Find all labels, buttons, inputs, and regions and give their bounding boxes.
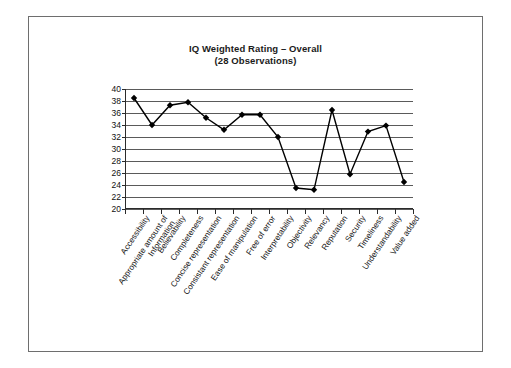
series-line [134,98,404,190]
y-axis-tick-label: 30 [112,144,121,154]
data-point-marker [311,187,317,193]
plot-area: 4038363432302826242220 [125,89,413,209]
y-axis-tick-label: 26 [112,168,121,178]
data-point-marker [401,179,407,185]
data-point-marker [347,171,353,177]
figure-frame: IQ Weighted Rating – Overall (28 Observa… [28,16,483,352]
data-series-line [125,89,413,209]
y-axis-tick-label: 24 [112,180,121,190]
chart-title: IQ Weighted Rating – Overall [29,43,482,55]
chart-title-block: IQ Weighted Rating – Overall (28 Observa… [29,43,482,67]
data-point-marker [329,107,335,113]
data-point-marker [365,128,371,134]
y-axis-tick-label: 36 [112,108,121,118]
y-axis-tick-label: 40 [112,84,121,94]
y-axis-tick-label: 28 [112,156,121,166]
x-axis-category-labels: AccessibilityAppropriate amount ofInform… [125,214,413,334]
data-point-marker [293,185,299,191]
y-axis-tick-label: 20 [112,204,121,214]
y-axis-tick-label: 38 [112,96,121,106]
data-point-marker [383,122,389,128]
chart-subtitle: (28 Observations) [29,55,482,67]
y-axis-tick-label: 22 [112,192,121,202]
y-axis-tick-label: 34 [112,120,121,130]
y-axis-tick-label: 32 [112,132,121,142]
